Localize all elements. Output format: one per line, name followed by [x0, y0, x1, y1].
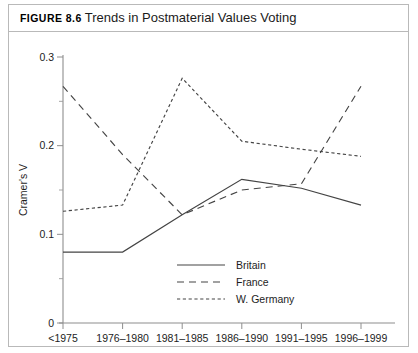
x-tick-label: 1976–1980 [96, 332, 149, 344]
legend-label-france[interactable]: France [236, 276, 269, 288]
line-chart: 00.10.20.3Cramer's V<19751976–19801981–1… [9, 33, 410, 347]
page-title: Figure 8.6Trends in Postmaterial Values … [20, 10, 296, 25]
y-tick-label: 0 [48, 317, 54, 329]
legend-label-w-germany[interactable]: W. Germany [236, 293, 295, 305]
chart-legend[interactable]: BritainFranceW. Germany [177, 259, 295, 305]
series-line-w-germany [63, 78, 361, 211]
chart-plot-area: 00.10.20.3Cramer's V<19751976–19801981–1… [9, 33, 410, 347]
chart-axes: 00.10.20.3Cramer's V<19751976–19801981–1… [17, 51, 395, 344]
figure-caption: Trends in Postmaterial Values Voting [85, 10, 297, 25]
x-tick-label: 1996–1999 [335, 332, 388, 344]
y-axis-title: Cramer's V [17, 164, 29, 216]
figure-title-bar: Figure 8.6Trends in Postmaterial Values … [9, 5, 408, 32]
x-tick-label: 1991–1995 [275, 332, 328, 344]
figure-number-label: Figure 8.6 [20, 12, 82, 24]
x-tick-label: 1981–1985 [156, 332, 209, 344]
legend-label-britain[interactable]: Britain [236, 259, 266, 271]
x-tick-label: <1975 [48, 332, 78, 344]
x-tick-label: 1986–1990 [216, 332, 269, 344]
y-tick-label: 0.1 [39, 228, 54, 240]
series-line-britain [63, 179, 361, 252]
y-tick-label: 0.3 [39, 51, 54, 63]
figure-container: Figure 8.6Trends in Postmaterial Values … [8, 4, 409, 347]
chart-series [63, 78, 361, 252]
y-tick-label: 0.2 [39, 139, 54, 151]
